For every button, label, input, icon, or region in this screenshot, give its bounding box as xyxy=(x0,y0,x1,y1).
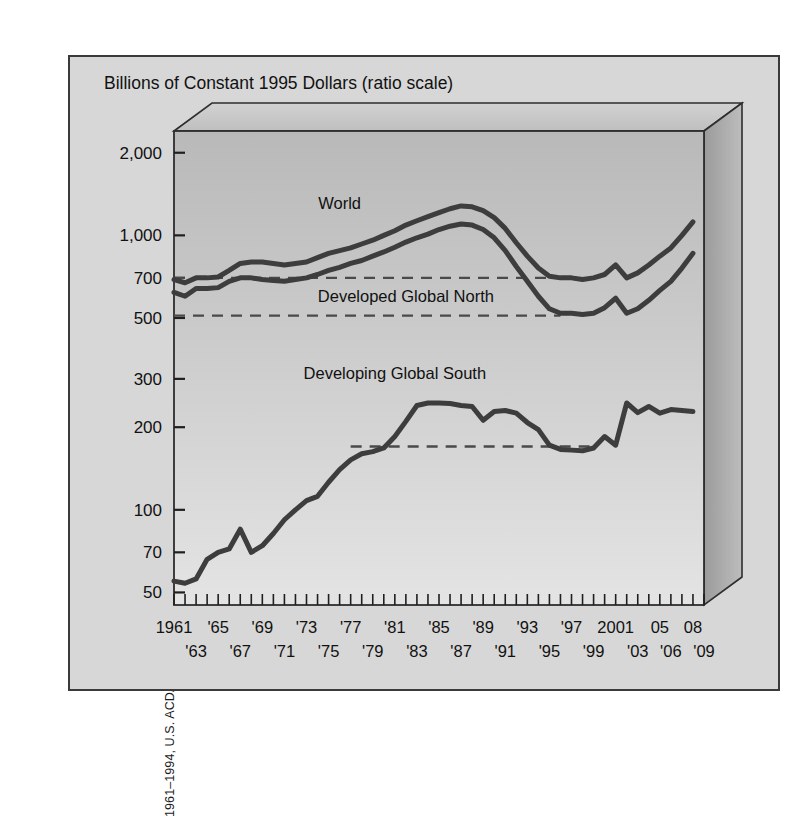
figure-panel: Billions of Constant 1995 Dollars (ratio… xyxy=(68,55,780,691)
x-tick-label-bottom: '67 xyxy=(229,642,251,660)
x-tick-label-bottom: '87 xyxy=(450,642,472,660)
x-tick-label-bottom: '71 xyxy=(274,642,296,660)
x-tick-label-bottom: '09 xyxy=(693,642,715,660)
x-tick-label-top: 2001 xyxy=(597,618,634,636)
source-note-container: 1961–1994, U.S. ACDA (1998): 1; 1995–200… xyxy=(24,360,44,660)
y-tick-label: 1,000 xyxy=(119,226,162,245)
x-axis-tick-labels-top: 1961'65'69'73'77'81'85'89'93'9720010508 xyxy=(156,618,702,636)
y-axis-tick-labels: 50701002003005007001,0002,000 xyxy=(119,144,162,603)
x-tick-label-bottom: '95 xyxy=(539,642,561,660)
box-top-face xyxy=(174,103,742,131)
y-tick-label: 100 xyxy=(134,501,162,520)
chart-svg: 50701002003005007001,0002,000 1961'65'69… xyxy=(70,57,782,693)
x-tick-label-top: 05 xyxy=(651,618,669,636)
series-label-world: World xyxy=(318,194,361,212)
x-tick-label-bottom: '83 xyxy=(406,642,428,660)
x-tick-label-top: '93 xyxy=(517,618,539,636)
y-tick-label: 200 xyxy=(134,418,162,437)
y-tick-label: 2,000 xyxy=(119,144,162,163)
x-tick-label-top: '81 xyxy=(384,618,406,636)
x-tick-label-bottom: '79 xyxy=(362,642,384,660)
x-tick-label-bottom: '63 xyxy=(185,642,207,660)
x-tick-label-bottom: '03 xyxy=(627,642,649,660)
plot-stage: 50701002003005007001,0002,000 1961'65'69… xyxy=(70,57,782,693)
y-tick-label: 300 xyxy=(134,370,162,389)
y-tick-label: 500 xyxy=(134,309,162,328)
x-tick-label-top: '69 xyxy=(252,618,274,636)
y-tick-label: 70 xyxy=(143,543,162,562)
x-tick-label-top: '89 xyxy=(472,618,494,636)
series-label-developed-global-north: Developed Global North xyxy=(318,287,494,305)
x-tick-label-top: '73 xyxy=(296,618,318,636)
x-tick-label-bottom: '75 xyxy=(318,642,340,660)
x-tick-label-top: '85 xyxy=(428,618,450,636)
series-label-developing-global-south: Developing Global South xyxy=(304,364,487,382)
x-axis-tick-labels-bottom: '63'67'71'75'79'83'87'91'95'99'03'06'09 xyxy=(185,642,714,660)
y-tick-label: 50 xyxy=(143,583,162,602)
x-tick-label-top: '77 xyxy=(340,618,362,636)
x-tick-label-bottom: '06 xyxy=(660,642,682,660)
x-tick-label-top: 1961 xyxy=(156,618,193,636)
x-tick-label-top: '97 xyxy=(561,618,583,636)
x-tick-label-bottom: '99 xyxy=(583,642,605,660)
x-tick-label-top: 08 xyxy=(684,618,702,636)
y-tick-label: 700 xyxy=(134,269,162,288)
x-tick-label-top: '65 xyxy=(207,618,229,636)
x-tick-label-bottom: '91 xyxy=(494,642,516,660)
box-right-face xyxy=(704,103,742,605)
